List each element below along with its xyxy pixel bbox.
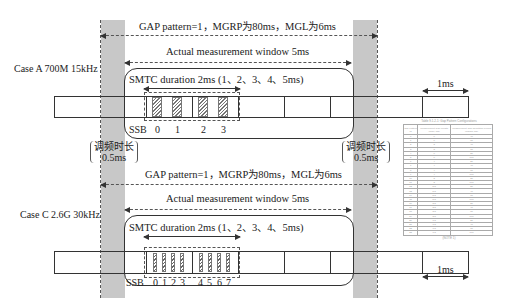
ms-divider <box>330 96 331 118</box>
gap-table-footer: (NOTE 1) <box>403 236 495 240</box>
case-a-smtc-arrow <box>144 88 240 89</box>
case-c-smtc-label: SMTC duration 2ms (1、2、3、4、5ms) <box>129 222 303 234</box>
ssb-block-1 <box>172 97 182 117</box>
table-cell: 23 <box>404 231 418 235</box>
ssb-index: 5 <box>207 277 212 288</box>
case-c-ssb-label: SSB <box>126 277 144 288</box>
arrow-right-icon <box>235 234 241 240</box>
ssb-block-7 <box>226 253 230 272</box>
retune-label-left: 调频时长 0.5ms <box>90 141 138 163</box>
table-cell: 1.5 <box>418 231 451 235</box>
ms-divider <box>330 251 331 274</box>
retune-label-right: 调频时长 0.5ms <box>342 141 390 163</box>
case-c-label: Case C 2.6G 30kHz <box>20 209 100 221</box>
retune-label-line1: 调频时长 <box>94 141 134 152</box>
ssb-index: 6 <box>217 277 222 288</box>
case-a-timeline <box>54 96 469 118</box>
arrow-left-icon <box>422 88 428 94</box>
case-c-timeline <box>54 251 469 274</box>
gap-table-caption: Table 9.1.2-1: Gap Pattern Configuration… <box>403 119 495 123</box>
ssb-block-3 <box>180 253 184 272</box>
arrow-right-icon <box>346 207 352 213</box>
case-a-actual-window-arrow <box>125 62 351 63</box>
arrow-left-icon <box>100 182 106 188</box>
table-row: 231.5160 <box>404 231 493 235</box>
arrow-right-icon <box>346 60 352 66</box>
arrow-right-icon <box>372 182 378 188</box>
ms-divider <box>284 251 285 274</box>
arrow-right-icon <box>372 33 378 39</box>
ssb-index: 4 <box>198 277 203 288</box>
ssb-index: 0 <box>155 124 160 135</box>
ssb-block-3 <box>218 97 228 117</box>
case-a-ssb-label: SSB <box>129 124 147 135</box>
case-c-unit-label: 1ms <box>437 264 454 276</box>
table-header: Measurement Gap Length (MGL, ms) <box>418 125 451 135</box>
ssb-index: 2 <box>201 124 206 135</box>
ssb-index: 3 <box>221 124 226 135</box>
case-c-gap-label: GAP pattern=1，MGRP为80ms，MGL为6ms <box>145 169 342 181</box>
case-a-unit-label: 1ms <box>437 78 454 90</box>
gap-pattern-table: Gap Pattern Id Measurement Gap Length (M… <box>403 124 493 236</box>
case-c-actual-window-arrow <box>125 209 351 210</box>
ssb-block-6 <box>217 253 221 272</box>
case-c-unit-arrow <box>423 276 468 277</box>
arrow-right-icon <box>463 274 469 280</box>
ms-divider <box>284 96 285 118</box>
table-header: Gap Pattern Id <box>404 125 418 135</box>
ssb-block-2 <box>198 97 208 117</box>
ssb-index: 0 <box>153 277 158 288</box>
ssb-index: 3 <box>180 277 185 288</box>
ms-divider <box>422 96 423 118</box>
ssb-block-5 <box>208 253 212 272</box>
case-a-gap-arrow <box>101 35 377 36</box>
ssb-index: 1 <box>175 124 180 135</box>
case-a-actual-window-label: Actual measurement window 5ms <box>166 46 309 58</box>
table-header: Measurement Gap Repetition Period (MGRP,… <box>451 125 493 135</box>
case-a-gap-label: GAP pattern=1，MGRP为80ms，MGL为6ms <box>139 21 336 33</box>
ssb-index: 7 <box>226 277 231 288</box>
case-a-smtc-label: SMTC duration 2ms (1、2、3、4、5ms) <box>129 74 303 86</box>
ssb-index: 1 <box>162 277 167 288</box>
case-a-label: Case A 700M 15kHz <box>14 63 98 75</box>
case-a-unit-arrow <box>423 90 468 91</box>
arrow-left-icon <box>143 234 149 240</box>
table-header-row: Gap Pattern Id Measurement Gap Length (M… <box>404 125 493 135</box>
ssb-block-1 <box>162 253 166 272</box>
arrow-left-icon <box>100 33 106 39</box>
arrow-left-icon <box>124 207 130 213</box>
retune-label-line2: 0.5ms <box>346 152 386 163</box>
case-c-smtc-arrow <box>144 236 240 237</box>
ssb-block-0 <box>153 253 157 272</box>
arrow-right-icon <box>463 88 469 94</box>
ssb-block-0 <box>152 97 162 117</box>
case-c-actual-window-label: Actual measurement window 5ms <box>166 193 309 205</box>
ssb-block-4 <box>199 253 203 272</box>
ms-divider <box>422 251 423 274</box>
gap-pattern-table-panel: Table 9.1.2-1: Gap Pattern Configuration… <box>403 119 495 240</box>
retune-label-line1: 调频时长 <box>346 141 386 152</box>
retune-label-line2: 0.5ms <box>94 152 134 163</box>
case-c-gap-arrow <box>101 184 377 185</box>
arrow-left-icon <box>422 274 428 280</box>
ssb-block-2 <box>171 253 175 272</box>
ssb-index: 2 <box>171 277 176 288</box>
table-cell: 160 <box>451 231 493 235</box>
arrow-left-icon <box>124 60 130 66</box>
